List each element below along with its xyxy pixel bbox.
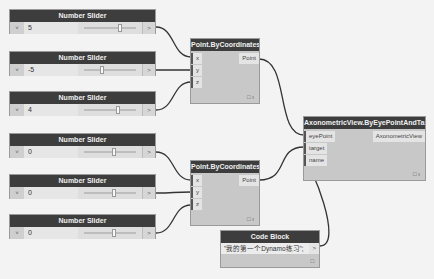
slider-thumb[interactable] <box>112 229 116 237</box>
chevron-down-icon[interactable]: ˅ <box>10 227 24 239</box>
output-port[interactable]: > <box>142 104 155 116</box>
number-slider-2[interactable]: Number Slider ˅ -5 > <box>9 51 156 76</box>
number-slider-5[interactable]: Number Slider ˅ 0 > <box>9 174 156 199</box>
input-port-name[interactable]: name <box>304 155 327 166</box>
number-slider-3[interactable]: Number Slider ˅ 4 > <box>9 91 156 116</box>
slider-track[interactable] <box>78 22 142 34</box>
point-by-coordinates-node-1[interactable]: Point.ByCoordinates x y z Point □ ı <box>190 38 260 104</box>
output-port[interactable]: > <box>309 243 319 254</box>
graph-canvas[interactable]: Number Slider ˅ 5 > Number Slider ˅ -5 >… <box>0 0 434 279</box>
output-port-axonometric-view[interactable]: AxonometricView <box>373 131 425 142</box>
slider-track[interactable] <box>78 64 142 76</box>
preview-toggle-icon[interactable]: □ ı <box>413 171 420 177</box>
slider-value[interactable]: -5 <box>24 64 78 76</box>
output-port-point[interactable]: Point <box>239 53 259 64</box>
slider-value[interactable]: 0 <box>24 146 78 158</box>
output-port[interactable]: > <box>142 146 155 158</box>
slider-track[interactable] <box>78 146 142 158</box>
slider-thumb[interactable] <box>116 106 120 114</box>
preview-toggle-icon[interactable]: □ <box>310 258 314 264</box>
node-title: Point.ByCoordinates <box>191 39 259 51</box>
slider-thumb[interactable] <box>100 66 104 74</box>
number-slider-4[interactable]: Number Slider ˅ 0 > <box>9 133 156 158</box>
code-text: "我的第一个Dynamo练习"; <box>224 245 304 252</box>
node-title: Number Slider <box>10 92 155 104</box>
node-title: Number Slider <box>10 175 155 187</box>
chevron-down-icon[interactable]: ˅ <box>10 64 24 76</box>
slider-track[interactable] <box>78 227 142 239</box>
slider-value[interactable]: 5 <box>24 22 78 34</box>
input-port-z[interactable]: z <box>191 199 202 210</box>
slider-value[interactable]: 0 <box>24 227 78 239</box>
node-title: AxonometricView.ByEyePointAndTarget <box>304 117 425 129</box>
output-port-point[interactable]: Point <box>239 175 259 186</box>
node-title: Number Slider <box>10 10 155 22</box>
input-port-z[interactable]: z <box>191 77 202 88</box>
chevron-down-icon[interactable]: ˅ <box>10 104 24 116</box>
node-title: Point.ByCoordinates <box>191 161 259 173</box>
slider-value[interactable]: 4 <box>24 104 78 116</box>
point-by-coordinates-node-2[interactable]: Point.ByCoordinates x y z Point □ ı <box>190 160 260 226</box>
input-port-y[interactable]: y <box>191 65 202 76</box>
slider-track[interactable] <box>78 187 142 199</box>
output-port[interactable]: > <box>142 22 155 34</box>
code-input[interactable]: "我的第一个Dynamo练习"; <box>221 243 319 254</box>
preview-toggle-icon[interactable]: □ ı <box>247 94 254 100</box>
node-title: Number Slider <box>10 215 155 227</box>
input-port-target[interactable]: target <box>304 143 327 154</box>
node-title: Number Slider <box>10 52 155 64</box>
slider-thumb[interactable] <box>118 24 122 32</box>
slider-thumb[interactable] <box>112 148 116 156</box>
number-slider-6[interactable]: Number Slider ˅ 0 > <box>9 214 156 239</box>
axonometric-view-node[interactable]: AxonometricView.ByEyePointAndTarget eyeP… <box>303 116 426 181</box>
chevron-down-icon[interactable]: ˅ <box>10 146 24 158</box>
input-port-eyepoint[interactable]: eyePoint <box>304 131 335 142</box>
chevron-down-icon[interactable]: ˅ <box>10 187 24 199</box>
number-slider-1[interactable]: Number Slider ˅ 5 > <box>9 9 156 34</box>
output-port[interactable]: > <box>142 187 155 199</box>
input-port-x[interactable]: x <box>191 175 202 186</box>
slider-track[interactable] <box>78 104 142 116</box>
slider-value[interactable]: 0 <box>24 187 78 199</box>
input-port-x[interactable]: x <box>191 53 202 64</box>
node-title: Number Slider <box>10 134 155 146</box>
code-block-node[interactable]: Code Block "我的第一个Dynamo练习"; > □ <box>220 230 320 268</box>
chevron-down-icon[interactable]: ˅ <box>10 22 24 34</box>
node-title: Code Block <box>221 231 319 243</box>
output-port[interactable]: > <box>142 227 155 239</box>
slider-thumb[interactable] <box>112 189 116 197</box>
output-port[interactable]: > <box>142 64 155 76</box>
preview-toggle-icon[interactable]: □ ı <box>247 216 254 222</box>
input-port-y[interactable]: y <box>191 187 202 198</box>
